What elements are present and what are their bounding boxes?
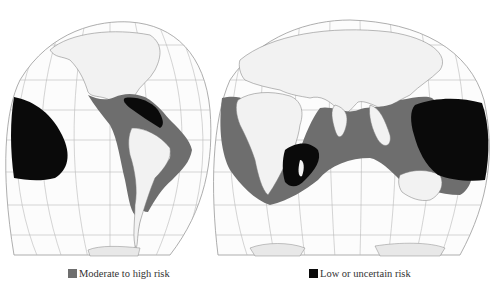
antarctica-left [88,246,140,256]
legend-label-moderate: Moderate to high risk [79,268,170,279]
antarctica-right-1 [250,244,305,257]
eastern-lobe [210,20,500,258]
legend-item-moderate-high-risk: Moderate to high risk [68,268,170,279]
legend-swatch-moderate [68,269,77,278]
legend-label-low: Low or uncertain risk [320,268,411,279]
americas-lobe [0,22,220,258]
legend-swatch-low [309,269,318,278]
antarctica-right-2 [375,243,445,256]
legend-item-low-uncertain-risk: Low or uncertain risk [309,268,411,279]
world-map [0,0,502,260]
